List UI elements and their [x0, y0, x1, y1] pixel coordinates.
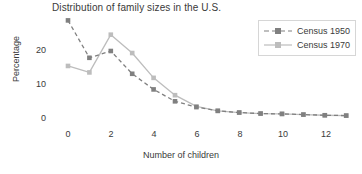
data-point-marker — [258, 111, 263, 116]
data-point-marker — [151, 76, 156, 81]
data-point-marker — [66, 64, 71, 69]
data-point-marker — [301, 112, 306, 117]
data-point-marker — [323, 113, 328, 118]
data-point-marker — [344, 113, 349, 118]
data-point-marker — [87, 70, 92, 75]
data-point-marker — [194, 105, 199, 110]
data-point-marker — [237, 110, 242, 115]
legend-swatch-solid-line — [263, 39, 293, 51]
data-point-marker — [280, 112, 285, 117]
data-point-marker — [173, 99, 178, 104]
legend-item-census-1950[interactable]: Census 1950 — [263, 24, 350, 38]
data-point-marker — [130, 51, 135, 56]
data-point-marker — [151, 87, 156, 92]
legend-item-census-1970[interactable]: Census 1970 — [263, 38, 350, 52]
data-point-marker — [173, 93, 178, 98]
data-point-marker — [109, 49, 114, 54]
chart-figure: Distribution of family sizes in the U.S.… — [0, 0, 362, 174]
data-point-marker — [66, 18, 71, 23]
data-point-marker — [87, 56, 92, 61]
data-point-marker — [130, 71, 135, 76]
data-point-marker — [216, 109, 221, 114]
chart-legend: Census 1950 Census 1970 — [258, 20, 356, 56]
legend-swatch-dashed-line — [263, 25, 293, 37]
data-point-marker — [109, 32, 114, 37]
legend-label-census-1970: Census 1970 — [297, 40, 350, 50]
legend-label-census-1950: Census 1950 — [297, 26, 350, 36]
